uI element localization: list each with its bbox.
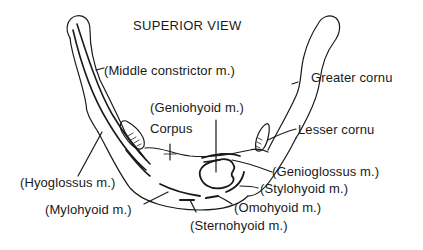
leader-genioglossus xyxy=(232,160,272,172)
stylohyoid-attachment xyxy=(226,172,244,192)
label-corpus: Corpus xyxy=(150,122,193,135)
hyoid-diagram: SUPERIOR VIEW (Middle constrictor m.) Gr… xyxy=(0,0,423,250)
left-cornu-muscle-line-2 xyxy=(77,24,150,164)
geniohyoid-attachment xyxy=(200,159,235,188)
leader-lesser-cornu xyxy=(268,129,296,140)
leader-omohyoid xyxy=(218,196,232,204)
leader-mylohyoid xyxy=(144,192,168,204)
leader-stylohyoid xyxy=(240,186,258,188)
label-hyoglossus: (Hyoglossus m.) xyxy=(20,176,115,189)
mylohyoid-attachment xyxy=(160,184,200,196)
left-greater-cornu-inner xyxy=(70,38,98,132)
label-lesser-cornu: Lesser cornu xyxy=(298,123,374,136)
label-mylohyoid: (Mylohyoid m.) xyxy=(45,203,132,216)
label-greater-cornu: Greater cornu xyxy=(311,71,393,84)
label-geniohyoid: (Geniohyoid m.) xyxy=(150,101,244,114)
label-genioglossus: (Genioglossus m.) xyxy=(272,165,379,178)
left-body-outer xyxy=(98,132,248,210)
label-middle-constrictor: (Middle constrictor m.) xyxy=(104,64,235,77)
genioglossus-attachment-2 xyxy=(204,160,220,162)
label-stylohyoid: (Stylohyoid m.) xyxy=(260,182,348,195)
label-omohyoid: (Omohyoid m.) xyxy=(234,201,321,214)
leader-hyoglossus xyxy=(78,132,102,176)
label-sternohyoid: (Sternohyoid m.) xyxy=(190,219,288,232)
corpus-top-edge xyxy=(145,148,268,157)
leader-greater-cornu xyxy=(292,82,298,84)
omohyoid-attachment xyxy=(206,196,218,198)
diagram-title: SUPERIOR VIEW xyxy=(133,19,242,32)
leader-middle-constrictor xyxy=(96,68,104,70)
